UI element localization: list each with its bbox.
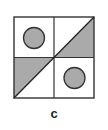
figure-label: c bbox=[0, 107, 108, 121]
top-left-circle bbox=[24, 28, 45, 49]
figure-canvas: c bbox=[0, 0, 108, 130]
bottom-right-circle bbox=[64, 68, 85, 89]
